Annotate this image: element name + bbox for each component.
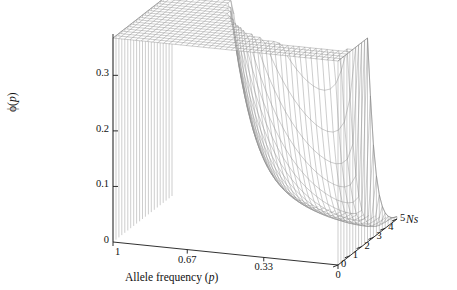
y-axis-title-close: ) (6, 93, 18, 97)
y-axis-title-open: ( (6, 102, 18, 106)
axis-tick-label: 0.1 (96, 178, 109, 189)
z-axis-title: Ns (406, 213, 418, 225)
axis-tick-label: 0.67 (178, 254, 196, 265)
y-axis-title: ϕ(p) (6, 93, 18, 113)
x-axis-title: Allele frequency (p) (125, 271, 218, 283)
surface-plot-figure: ϕ(p) Allele frequency (p) Ns 00.10.20.31… (0, 0, 457, 290)
axis-tick-label: 1 (353, 249, 358, 260)
axis-tick-label: 0.33 (255, 261, 273, 272)
axis-tick-label: 1 (115, 246, 120, 257)
axis-tick-label: 0 (104, 234, 109, 245)
axis-tick-label: 0 (335, 269, 340, 280)
x-axis-title-close: ) (214, 271, 218, 283)
axis-tick-label: 2 (365, 240, 370, 251)
z-axis-title-n: N (406, 213, 414, 225)
surface-mesh (113, 0, 397, 265)
surface-plot-canvas (0, 0, 457, 290)
y-axis-title-var: p (6, 96, 18, 102)
z-axis-title-s: s (414, 213, 418, 225)
y-axis-title-symbol: ϕ (6, 106, 18, 112)
axis-tick-label: 0.3 (96, 67, 109, 78)
axis-tick-label: 0.2 (96, 123, 109, 134)
axis-tick-label: 4 (388, 221, 393, 232)
x-axis-title-text: Allele frequency ( (125, 271, 209, 283)
axis-tick-label: 0 (341, 258, 346, 269)
axis-tick-label: 3 (376, 230, 381, 241)
axis-tick-label: 5 (400, 212, 405, 223)
